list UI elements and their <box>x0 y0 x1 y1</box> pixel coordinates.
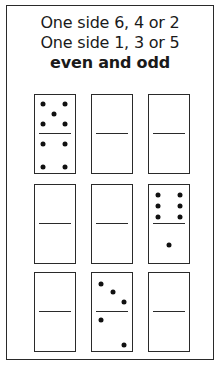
domino-r3c3-blank[interactable] <box>148 272 190 352</box>
instruction-line-2: One side 1, 3 or 5 <box>0 33 220 53</box>
domino-r2c3 <box>148 184 190 264</box>
pip <box>63 122 68 127</box>
pip <box>156 215 161 220</box>
pip <box>63 165 68 170</box>
pip <box>122 300 127 305</box>
domino-divider <box>39 311 71 312</box>
instruction-heading: even and odd <box>0 53 220 73</box>
domino-divider <box>96 311 128 312</box>
pip <box>41 122 46 127</box>
domino-r2c2-blank[interactable] <box>91 184 133 264</box>
pip <box>52 112 57 117</box>
pip <box>41 142 46 147</box>
domino-r1c2-blank[interactable] <box>91 94 133 174</box>
domino-divider <box>153 223 185 224</box>
pip <box>63 142 68 147</box>
pip <box>178 204 183 209</box>
domino-divider <box>153 311 185 312</box>
domino-r2c1-blank[interactable] <box>34 184 76 264</box>
pip <box>122 343 127 348</box>
pip <box>63 102 68 107</box>
pip <box>167 243 172 248</box>
domino-divider <box>39 223 71 224</box>
domino-r1c1 <box>34 94 76 174</box>
pip <box>178 215 183 220</box>
domino-divider <box>96 133 128 134</box>
pip <box>99 282 104 287</box>
domino-r1c3-blank[interactable] <box>148 94 190 174</box>
domino-r3c2 <box>91 272 133 352</box>
domino-divider <box>153 133 185 134</box>
pip <box>156 204 161 209</box>
domino-divider <box>39 133 71 134</box>
pip <box>111 290 116 295</box>
pip <box>99 318 104 323</box>
pip <box>178 193 183 198</box>
instruction-line-1: One side 6, 4 or 2 <box>0 13 220 33</box>
pip <box>41 165 46 170</box>
pip <box>156 193 161 198</box>
pip <box>41 102 46 107</box>
domino-r3c1-blank[interactable] <box>34 272 76 352</box>
domino-divider <box>96 223 128 224</box>
